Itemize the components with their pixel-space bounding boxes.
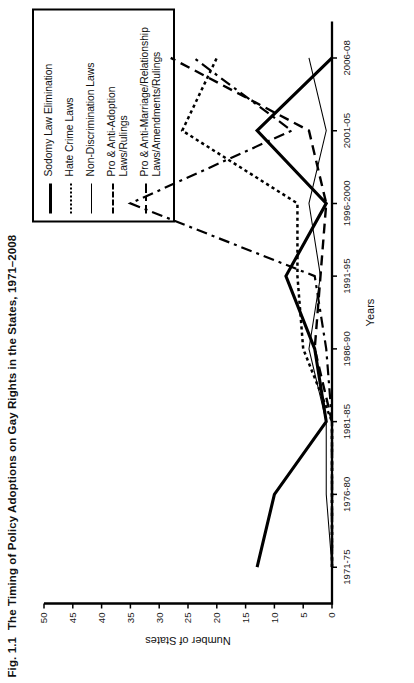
x-axis-tick-label: 1981-85 [341,404,352,439]
series-line [309,57,332,566]
y-axis-tick-label: 35 [125,612,136,623]
series-line [257,57,332,566]
x-axis-title: Years [364,298,376,326]
figure-number: Fig. 1.1 [6,637,18,677]
chart-plot-area: 051015202530354045501971-751976-801981-8… [36,9,396,649]
x-axis-tick-label: 1996-2000 [341,180,352,226]
y-axis-tick-label: 5 [298,612,309,617]
series-line [171,57,332,566]
figure-page: Fig. 1.1The Timing of Policy Adoptions o… [0,0,414,683]
x-axis-tick-label: 1986-90 [341,331,352,366]
figure-caption: Fig. 1.1The Timing of Policy Adoptions o… [6,234,18,677]
x-axis-tick-label: 1971-75 [341,549,352,584]
y-axis-tick-label: 30 [154,612,165,623]
y-axis-tick-label: 0 [326,612,337,617]
y-axis-tick-label: 20 [211,612,222,623]
x-axis-tick-label: 2006-08 [341,40,352,75]
y-axis-tick-label: 50 [38,612,49,623]
x-axis-tick-label: 1976-80 [341,476,352,511]
rotated-figure-canvas: Fig. 1.1The Timing of Policy Adoptions o… [0,0,414,683]
y-axis-tick-label: 15 [240,612,251,623]
chart-axes [44,21,332,603]
line-chart: 051015202530354045501971-751976-801981-8… [36,9,396,649]
x-axis-tick-label: 2001-05 [341,113,352,148]
y-axis-tick-label: 45 [67,612,78,623]
x-axis-tick-label: 1991-95 [341,258,352,293]
y-axis-tick-label: 40 [96,612,107,623]
figure-title-text: The Timing of Policy Adoptions on Gay Ri… [6,234,18,629]
y-axis-tick-label: 25 [182,612,193,623]
y-axis-title: Number of States [145,634,231,646]
y-axis-tick-label: 10 [269,612,280,623]
